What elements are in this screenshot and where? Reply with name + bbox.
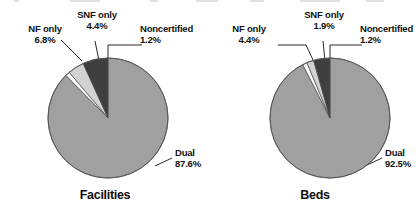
callout-dual: Dual 92.5% <box>385 148 420 169</box>
chart-title-facilities: Facilities <box>0 188 210 202</box>
callout-snf-only: SNF only 1.9% <box>294 10 354 31</box>
two-pie-chart-figure: NF only 6.8% SNF only 4.4% Noncertified … <box>0 0 420 208</box>
leader-line-snf-only <box>95 41 99 61</box>
callout-dual: Dual 87.6% <box>175 148 215 169</box>
leader-line-dual <box>155 158 172 166</box>
callout-noncertified: Noncertified 1.2% <box>140 24 210 45</box>
callout-dual-value: 87.6% <box>175 159 215 170</box>
callout-nf-only: NF only 4.4% <box>220 24 278 45</box>
pie-chart-facilities: NF only 6.8% SNF only 4.4% Noncertified … <box>0 0 210 208</box>
chart-title-beds: Beds <box>210 188 420 202</box>
callout-noncertified: Noncertified 1.2% <box>360 24 420 45</box>
callout-nf-only-value: 4.4% <box>220 35 278 46</box>
pie-chart-beds: NF only 4.4% SNF only 1.9% Noncertified … <box>210 0 420 208</box>
callout-snf-only-value: 4.4% <box>66 21 128 32</box>
callout-snf-only-value: 1.9% <box>294 21 354 32</box>
callout-noncertified-value: 1.2% <box>360 35 420 46</box>
callout-snf-only: SNF only 4.4% <box>66 10 128 31</box>
leader-line-nf-only-drop <box>306 45 314 62</box>
callout-dual-value: 92.5% <box>385 159 420 170</box>
callout-noncertified-value: 1.2% <box>140 35 210 46</box>
callout-nf-only-value: 6.8% <box>14 35 76 46</box>
